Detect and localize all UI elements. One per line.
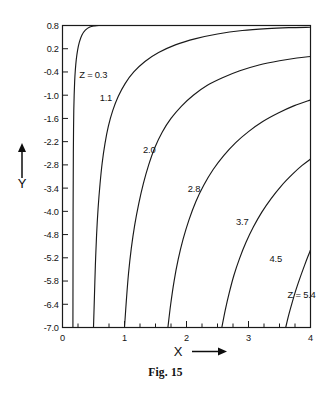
- x-tick-label: 2: [184, 333, 189, 343]
- y-tick-label: -0.4: [44, 67, 59, 77]
- y-tick-label: -7.0: [44, 323, 59, 333]
- curve-label: Z = 5.4: [288, 289, 316, 300]
- x-axis-title: X: [174, 344, 183, 359]
- y-tick-label: -5.8: [44, 276, 59, 286]
- curve-label: 3.7: [236, 216, 248, 227]
- y-tick-label: -5.2: [44, 253, 59, 263]
- y-tick-label: 0.8: [47, 21, 59, 31]
- x-axis-ticks: 01234: [60, 321, 313, 343]
- x-tick-label: 1: [122, 333, 127, 343]
- y-tick-label: -3.4: [44, 184, 59, 194]
- y-tick-label: -2.8: [44, 160, 59, 170]
- y-tick-label: -6.4: [44, 300, 59, 310]
- curve-3-7: [222, 159, 311, 327]
- x-tick-label: 3: [246, 333, 251, 343]
- y-tick-label: -1.0: [44, 91, 59, 101]
- curve-label: 2.8: [188, 183, 200, 194]
- curve-2-0: [125, 56, 311, 327]
- curve-label: 2.0: [143, 144, 155, 155]
- figure-15: 0.80.2-0.4-1.0-1.6-2.2-2.8-3.4-4.0-4.8-5…: [0, 0, 331, 397]
- y-tick-label: -2.2: [44, 137, 59, 147]
- curve-group: [73, 26, 311, 328]
- y-tick-label: -4.8: [44, 230, 59, 240]
- up-arrow-icon: [18, 143, 26, 178]
- y-tick-label: -4.0: [44, 207, 59, 217]
- y-tick-label: -1.6: [44, 114, 59, 124]
- y-axis-ticks: 0.80.2-0.4-1.0-1.6-2.2-2.8-3.4-4.0-4.8-5…: [44, 21, 68, 333]
- y-tick-label: 0.2: [47, 44, 59, 54]
- curve-label: 4.5: [270, 253, 282, 264]
- curve-1-1: [94, 27, 311, 327]
- x-tick-label: 0: [60, 333, 65, 343]
- x-tick-label: 4: [308, 333, 313, 343]
- curve-label: 1.1: [100, 92, 112, 103]
- figure-caption: Fig. 15: [0, 366, 331, 378]
- curve-label: Z = 0.3: [79, 69, 107, 80]
- y-axis-title: Y: [18, 176, 27, 191]
- chart-canvas: 0.80.2-0.4-1.0-1.6-2.2-2.8-3.4-4.0-4.8-5…: [0, 0, 331, 397]
- right-arrow-icon: [192, 348, 227, 356]
